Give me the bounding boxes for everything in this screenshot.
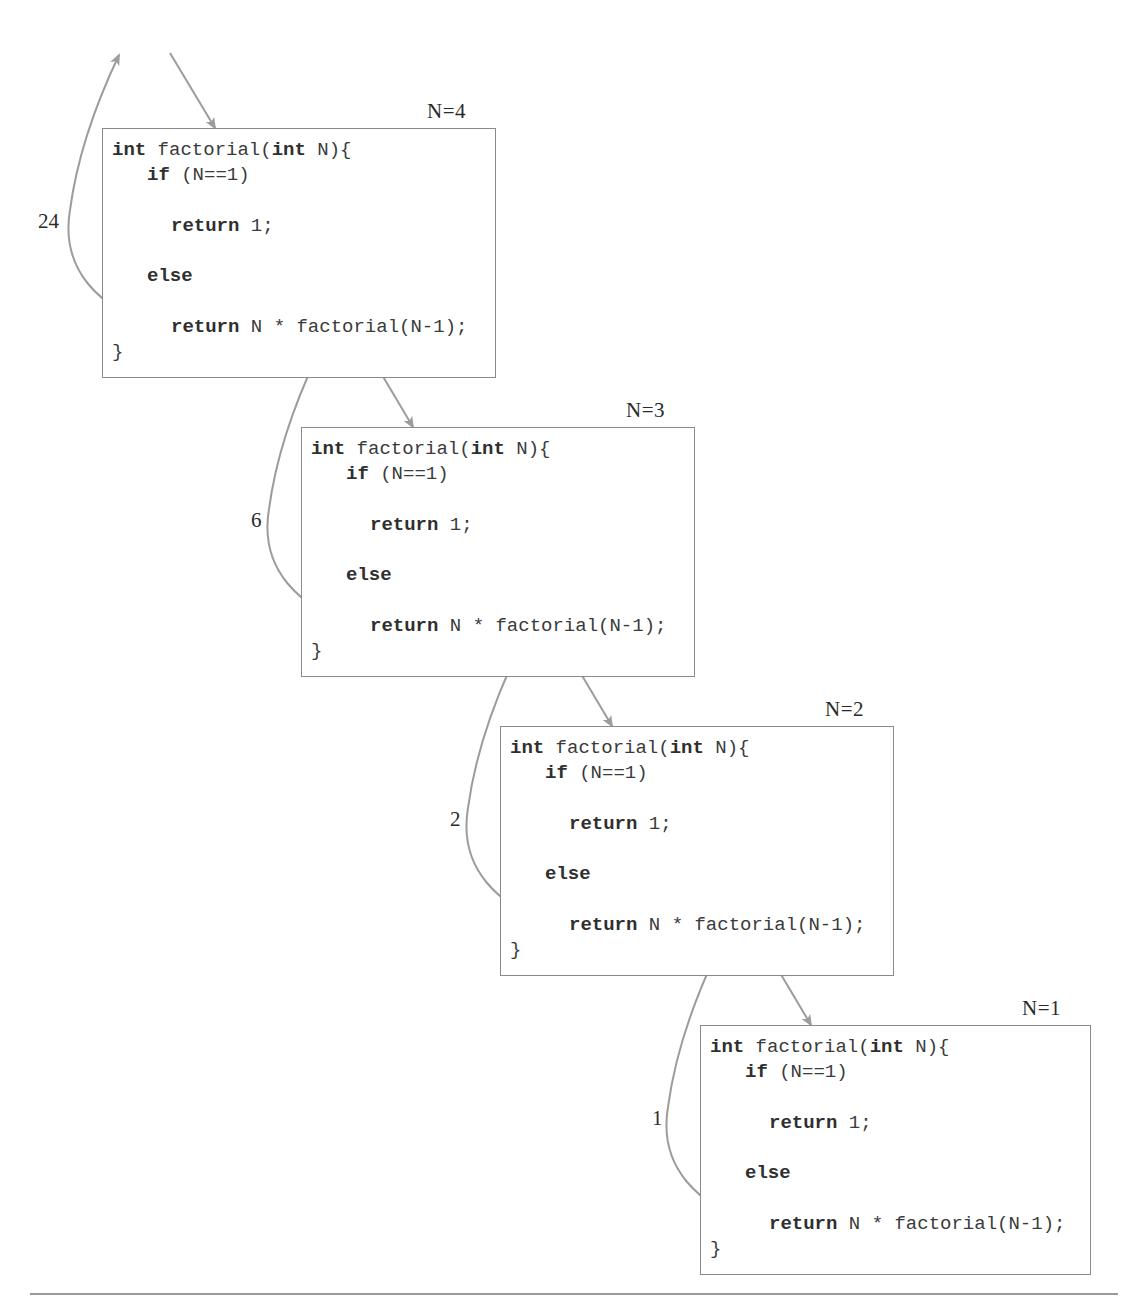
frame-label-n1: N=1 xyxy=(1022,996,1061,1021)
keyword-if: if xyxy=(346,463,369,485)
code-text: factorial( xyxy=(345,438,470,460)
code-line-close-brace: } xyxy=(710,1238,721,1260)
code-text: N * factorial(N-1); xyxy=(637,914,865,936)
keyword-else: else xyxy=(545,863,591,885)
code-text: N){ xyxy=(306,139,352,161)
code-line-if: if (N==1) xyxy=(147,164,250,186)
code-line-recursive-return: return N * factorial(N-1); xyxy=(370,615,666,637)
frame-label-n2: N=2 xyxy=(825,697,864,722)
code-line-recursive-return: return N * factorial(N-1); xyxy=(769,1213,1065,1235)
keyword-return: return xyxy=(569,914,637,936)
code-text: (N==1) xyxy=(170,164,250,186)
code-text: } xyxy=(710,1238,721,1260)
code-line-return-1: return 1; xyxy=(370,514,473,536)
keyword-return: return xyxy=(370,514,438,536)
code-block: int factorial(int N){ if (N==1) return 1… xyxy=(710,1026,756,1202)
return-value-label-n1: 1 xyxy=(652,1106,663,1131)
code-text: (N==1) xyxy=(768,1061,848,1083)
code-line-return-1: return 1; xyxy=(569,813,672,835)
keyword-if: if xyxy=(545,762,568,784)
code-text: (N==1) xyxy=(568,762,648,784)
code-line-signature: int factorial(int N){ xyxy=(510,737,749,759)
code-line-if: if (N==1) xyxy=(545,762,648,784)
stack-frame-n1: int factorial(int N){ if (N==1) return 1… xyxy=(700,1025,1091,1275)
code-line-if: if (N==1) xyxy=(745,1061,848,1083)
code-line-signature: int factorial(int N){ xyxy=(311,438,550,460)
keyword-int: int xyxy=(112,139,146,161)
code-line-close-brace: } xyxy=(112,341,123,363)
stack-frame-n4: int factorial(int N){ if (N==1) return 1… xyxy=(102,128,496,378)
code-line-close-brace: } xyxy=(510,939,521,961)
keyword-else: else xyxy=(346,564,392,586)
keyword-return: return xyxy=(769,1112,837,1134)
caption-divider xyxy=(30,1293,1118,1295)
code-text: 1; xyxy=(837,1112,871,1134)
code-text: N * factorial(N-1); xyxy=(837,1213,1065,1235)
code-block: int factorial(int N){ if (N==1) return 1… xyxy=(112,129,158,305)
keyword-int: int xyxy=(311,438,345,460)
return-value-label-n4: 24 xyxy=(38,209,59,234)
keyword-return: return xyxy=(769,1213,837,1235)
code-text: 1; xyxy=(438,514,472,536)
code-line-else: else xyxy=(545,863,591,885)
return-value-label-n3: 6 xyxy=(251,508,262,533)
code-text: factorial( xyxy=(146,139,271,161)
code-line-close-brace: } xyxy=(311,640,322,662)
code-line-else: else xyxy=(745,1162,791,1184)
keyword-int: int xyxy=(272,139,306,161)
code-line-recursive-return: return N * factorial(N-1); xyxy=(569,914,865,936)
code-text: N){ xyxy=(704,737,750,759)
code-line-return-1: return 1; xyxy=(769,1112,872,1134)
code-text: N){ xyxy=(904,1036,950,1058)
return-value-label-n2: 2 xyxy=(450,807,461,832)
code-line-signature: int factorial(int N){ xyxy=(112,139,351,161)
keyword-return: return xyxy=(171,215,239,237)
call-arrow-into-n4 xyxy=(170,53,215,128)
code-text: } xyxy=(311,640,322,662)
code-text: } xyxy=(112,341,123,363)
code-block: int factorial(int N){ if (N==1) return 1… xyxy=(311,428,357,604)
keyword-int: int xyxy=(471,438,505,460)
code-text: 1; xyxy=(637,813,671,835)
code-text: factorial( xyxy=(744,1036,869,1058)
code-text: 1; xyxy=(239,215,273,237)
code-line-else: else xyxy=(147,265,193,287)
frame-label-n3: N=3 xyxy=(626,398,665,423)
keyword-return: return xyxy=(569,813,637,835)
keyword-if: if xyxy=(745,1061,768,1083)
stack-frame-n2: int factorial(int N){ if (N==1) return 1… xyxy=(500,726,894,976)
keyword-return: return xyxy=(370,615,438,637)
code-text: } xyxy=(510,939,521,961)
keyword-else: else xyxy=(745,1162,791,1184)
keyword-else: else xyxy=(147,265,193,287)
frame-label-n4: N=4 xyxy=(427,99,466,124)
stack-frame-n3: int factorial(int N){ if (N==1) return 1… xyxy=(301,427,695,677)
code-text: N * factorial(N-1); xyxy=(438,615,666,637)
code-text: (N==1) xyxy=(369,463,449,485)
keyword-if: if xyxy=(147,164,170,186)
keyword-int: int xyxy=(670,737,704,759)
keyword-return: return xyxy=(171,316,239,338)
keyword-int: int xyxy=(710,1036,744,1058)
code-text: factorial( xyxy=(544,737,669,759)
code-line-signature: int factorial(int N){ xyxy=(710,1036,949,1058)
keyword-int: int xyxy=(510,737,544,759)
code-line-else: else xyxy=(346,564,392,586)
code-text: N){ xyxy=(505,438,551,460)
keyword-int: int xyxy=(870,1036,904,1058)
code-block: int factorial(int N){ if (N==1) return 1… xyxy=(510,727,556,903)
code-text: N * factorial(N-1); xyxy=(239,316,467,338)
code-line-if: if (N==1) xyxy=(346,463,449,485)
code-line-return-1: return 1; xyxy=(171,215,274,237)
code-line-recursive-return: return N * factorial(N-1); xyxy=(171,316,467,338)
